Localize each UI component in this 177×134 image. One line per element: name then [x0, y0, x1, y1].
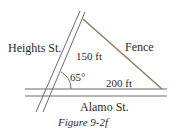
figure-caption: Figure 9-2f	[58, 117, 108, 128]
figure: Heights St. 150 ft Fence 65° 200 ft Alam…	[0, 0, 177, 134]
heights-street-label: Heights St.	[8, 42, 61, 54]
side-150-label: 150 ft	[76, 51, 102, 62]
side-200-label: 200 ft	[106, 78, 132, 89]
alamo-street-label: Alamo St.	[80, 101, 129, 113]
angle-label: 65°	[70, 72, 85, 83]
heights-street-line-left	[36, 11, 80, 112]
fence-label: Fence	[125, 41, 154, 53]
heights-street-line-right	[43, 12, 85, 112]
